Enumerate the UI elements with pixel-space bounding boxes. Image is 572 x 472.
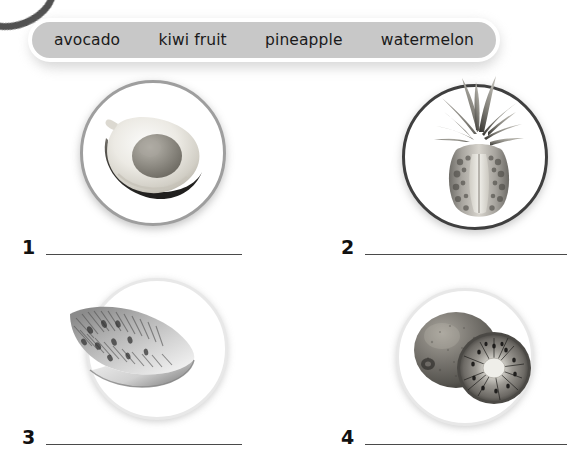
word-bank-option-pineapple[interactable]: pineapple bbox=[265, 31, 342, 49]
answer-line-3[interactable] bbox=[46, 444, 242, 445]
answer-row-1: 1 bbox=[22, 238, 246, 257]
item-number-4: 4 bbox=[341, 428, 365, 447]
item-number-3: 3 bbox=[22, 428, 46, 447]
answer-row-2: 2 bbox=[341, 238, 567, 257]
word-bank-option-avocado[interactable]: avocado bbox=[54, 31, 120, 49]
answer-line-1[interactable] bbox=[46, 254, 242, 255]
item-number-1: 1 bbox=[22, 238, 46, 257]
picture-cell-2 bbox=[398, 70, 558, 230]
word-bank-option-kiwi-fruit[interactable]: kiwi fruit bbox=[159, 31, 227, 49]
word-bank: avocado kiwi fruit pineapple watermelon bbox=[24, 14, 504, 66]
item-number-2: 2 bbox=[341, 238, 365, 257]
picture-cell-1 bbox=[80, 80, 226, 228]
answer-line-2[interactable] bbox=[365, 254, 567, 255]
picture-ring-1 bbox=[80, 80, 226, 226]
picture-cell-4 bbox=[396, 288, 544, 428]
picture-cell-3 bbox=[60, 278, 235, 426]
picture-ring-3 bbox=[86, 278, 228, 420]
word-bank-option-watermelon[interactable]: watermelon bbox=[381, 31, 474, 49]
answer-row-4: 4 bbox=[341, 428, 567, 447]
word-bank-pill: avocado kiwi fruit pineapple watermelon bbox=[28, 18, 500, 62]
picture-ring-2 bbox=[402, 84, 548, 230]
answer-line-4[interactable] bbox=[365, 444, 567, 445]
picture-ring-4 bbox=[396, 288, 534, 426]
answer-row-3: 3 bbox=[22, 428, 246, 447]
